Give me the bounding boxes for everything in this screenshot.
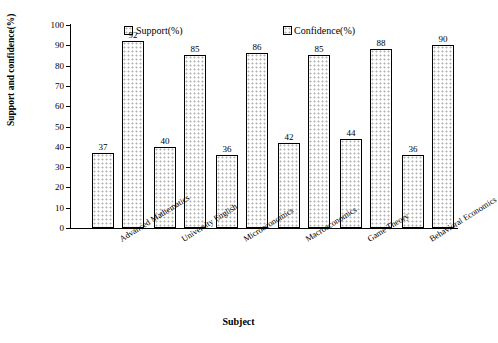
bar-value-label: 86	[253, 43, 262, 52]
y-tick-mark	[66, 228, 70, 229]
bar-value-label: 36	[223, 145, 232, 154]
bar-value-label: 44	[347, 129, 356, 138]
y-tick-mark	[66, 147, 70, 148]
y-tick-label: 100	[51, 21, 65, 30]
plot-area: 0102030405060708090100 37924085368642854…	[70, 24, 458, 229]
y-axis-title: Support and confidence(%)	[6, 14, 16, 126]
y-tick-label: 10	[55, 203, 64, 212]
y-tick-label: 70	[55, 81, 64, 90]
bar-confidence[interactable]: 86	[246, 53, 268, 228]
bar-confidence[interactable]: 85	[308, 55, 330, 228]
bar-value-label: 40	[161, 137, 170, 146]
bar-value-label: 37	[99, 143, 108, 152]
y-tick-mark	[66, 187, 70, 188]
y-tick-mark	[66, 106, 70, 107]
y-tick-label: 80	[55, 61, 64, 70]
bar-confidence[interactable]: 92	[122, 41, 144, 228]
y-axis-line	[70, 24, 71, 229]
y-tick-mark	[66, 208, 70, 209]
bar-value-label: 42	[285, 133, 294, 142]
bar-value-label: 88	[377, 39, 386, 48]
y-tick-label: 40	[55, 142, 64, 151]
bar-support[interactable]: 37	[92, 153, 114, 228]
y-tick-label: 30	[55, 163, 64, 172]
bar-confidence[interactable]: 88	[370, 49, 392, 228]
y-tick-mark	[66, 86, 70, 87]
y-tick-label: 20	[55, 183, 64, 192]
y-tick-label: 0	[60, 224, 65, 233]
y-tick-label: 60	[55, 102, 64, 111]
bar-value-label: 36	[409, 145, 418, 154]
bar-confidence[interactable]: 90	[432, 45, 454, 228]
y-tick-mark	[66, 127, 70, 128]
y-tick-label: 50	[55, 122, 64, 131]
y-tick-mark	[66, 45, 70, 46]
bar-value-label: 92	[129, 31, 138, 40]
bar-value-label: 85	[315, 45, 324, 54]
y-tick-mark	[66, 25, 70, 26]
y-tick-mark	[66, 66, 70, 67]
bar-value-label: 90	[439, 35, 448, 44]
y-tick-mark	[66, 167, 70, 168]
bar-value-label: 85	[191, 45, 200, 54]
y-tick-label: 90	[55, 41, 64, 50]
x-axis-title: Subject	[0, 316, 477, 327]
